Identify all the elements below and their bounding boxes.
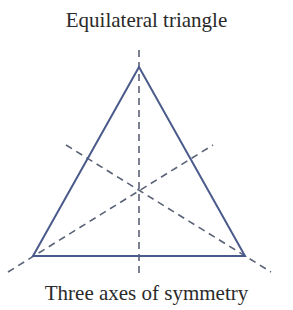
diagram-caption: Three axes of symmetry <box>0 281 293 306</box>
symmetry-axes <box>8 50 271 276</box>
right-vertex-axis <box>66 145 271 272</box>
left-vertex-axis <box>8 145 213 272</box>
equilateral-triangle-diagram <box>0 0 293 310</box>
